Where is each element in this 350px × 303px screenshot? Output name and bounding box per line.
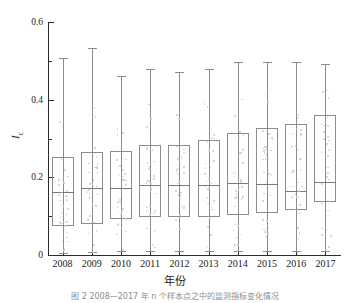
data-point — [296, 196, 298, 198]
data-point — [154, 230, 156, 232]
data-point — [326, 89, 328, 91]
data-point — [268, 173, 270, 175]
data-point — [150, 118, 152, 120]
data-point — [299, 204, 301, 206]
data-point — [152, 244, 154, 246]
boxplot-group — [227, 22, 249, 255]
data-point — [155, 193, 157, 195]
boxplot-group — [139, 22, 161, 255]
whisker-cap-lower — [146, 251, 155, 252]
data-point — [90, 183, 92, 185]
data-point — [241, 186, 243, 188]
data-point — [118, 202, 120, 204]
data-point — [266, 220, 268, 222]
data-point — [330, 235, 332, 237]
data-point — [327, 210, 329, 212]
data-point — [212, 150, 214, 152]
data-point — [262, 200, 264, 202]
data-point — [300, 129, 302, 131]
data-point — [93, 244, 95, 246]
boxplot-group — [285, 22, 307, 255]
median-line — [314, 182, 336, 183]
data-point — [123, 179, 125, 181]
y-tick-major — [49, 255, 54, 256]
y-tick-label: 0 — [3, 250, 43, 260]
data-point — [61, 158, 63, 160]
boxplot-group — [168, 22, 190, 255]
data-point — [178, 118, 180, 120]
data-point — [58, 179, 60, 181]
data-point — [322, 91, 324, 93]
data-point — [146, 147, 148, 149]
data-point — [179, 228, 181, 230]
data-point — [213, 134, 215, 136]
data-point — [183, 207, 185, 209]
data-point — [234, 244, 236, 246]
data-point — [265, 149, 267, 151]
data-point — [297, 117, 299, 119]
data-point — [125, 231, 127, 233]
data-point — [242, 196, 244, 198]
y-tick-label: 0.2 — [3, 172, 43, 182]
data-point — [66, 190, 68, 192]
data-point — [263, 150, 265, 152]
data-point — [175, 190, 177, 192]
data-point — [122, 249, 124, 251]
data-point — [148, 129, 150, 131]
boxplot-group — [81, 22, 103, 255]
data-point — [264, 94, 266, 96]
data-point — [94, 147, 96, 149]
data-point — [124, 173, 126, 175]
data-point — [146, 126, 148, 128]
data-point — [178, 159, 180, 161]
data-point — [89, 215, 91, 217]
data-point — [292, 133, 294, 135]
data-point — [179, 214, 181, 216]
data-point — [120, 213, 122, 215]
data-point — [233, 229, 235, 231]
data-point — [204, 103, 206, 105]
data-point — [60, 216, 62, 218]
data-point — [321, 234, 323, 236]
data-point — [321, 183, 323, 185]
data-point — [323, 131, 325, 133]
data-point — [94, 107, 96, 109]
data-point — [67, 252, 69, 254]
data-point — [240, 181, 242, 183]
data-point — [125, 236, 127, 238]
data-point — [125, 218, 127, 220]
data-point — [207, 141, 209, 143]
data-point — [119, 199, 121, 201]
whisker-cap-lower — [263, 251, 272, 252]
data-point — [206, 246, 208, 248]
data-point — [210, 234, 212, 236]
data-point — [324, 122, 326, 124]
data-point — [242, 149, 244, 151]
y-axis-title-symbol: I — [9, 135, 21, 139]
data-point — [239, 152, 241, 154]
whisker-cap-lower — [117, 251, 126, 252]
data-point — [328, 97, 330, 99]
data-point — [154, 247, 156, 249]
data-point — [267, 233, 269, 235]
data-point — [263, 172, 265, 174]
data-point — [122, 132, 124, 134]
data-point — [178, 181, 180, 183]
data-point — [176, 169, 178, 171]
data-point — [301, 186, 303, 188]
data-point — [327, 136, 329, 138]
data-point — [95, 116, 97, 118]
data-point — [88, 189, 90, 191]
data-point — [236, 196, 238, 198]
data-point — [67, 241, 69, 243]
data-point — [300, 251, 302, 253]
box-iqr — [256, 128, 278, 213]
data-point — [154, 210, 156, 212]
data-point — [269, 195, 271, 197]
median-line — [227, 183, 249, 184]
whisker-cap-upper — [59, 58, 68, 59]
box-iqr — [110, 151, 132, 219]
data-point — [176, 114, 178, 116]
figure-caption: 图 2 2008—2017 年 n 个样本点之中的监测指标变化情况 — [0, 292, 350, 302]
whisker-cap-upper — [117, 76, 126, 77]
